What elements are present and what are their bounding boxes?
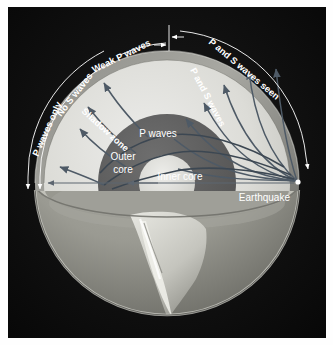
label-inner-core: Inner core [157,171,202,182]
label-outer-core-line1: Outer [110,151,136,162]
figure-root: P waves only No S waves Weak P waves P a… [0,0,333,345]
label-earthquake: Earthquake [239,192,291,203]
earth-cross-section-diagram: P waves only No S waves Weak P waves P a… [8,7,326,338]
label-outer-core-line2: core [113,164,133,175]
earthquake-focus-marker [295,179,300,184]
label-p-waves: P waves [139,128,177,139]
diagram-panel: P waves only No S waves Weak P waves P a… [8,7,326,338]
